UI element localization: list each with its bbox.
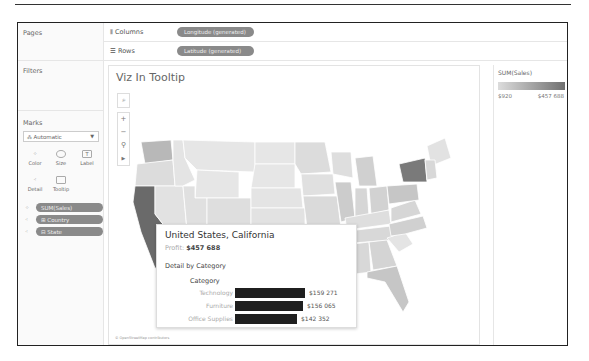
category-label: Technology <box>199 289 233 296</box>
state-nebraska <box>251 188 303 208</box>
country-pill-label: Country <box>47 217 69 223</box>
rows-icon: ☰ <box>110 47 118 55</box>
category-bar[interactable] <box>235 314 297 324</box>
state-north-dakota <box>255 142 295 164</box>
legend-gradient <box>498 82 565 90</box>
mark-pill-row: ⁖ ⊟ State <box>25 227 103 236</box>
category-value: $156 065 <box>307 302 336 309</box>
viz-title: Viz In Tooltip <box>116 71 185 84</box>
label-label: Label <box>80 160 94 166</box>
state-florida <box>367 266 409 312</box>
detail-icon: ⁖ <box>30 176 40 184</box>
chevron-down-icon: ▼ <box>90 133 94 139</box>
map-attribution[interactable]: © OpenStreetMap contributors <box>115 336 169 340</box>
tooltip-label: Tooltip <box>53 186 69 192</box>
pages-card[interactable]: Pages <box>18 23 104 61</box>
tooltip-bar-row: Technology $159 271 <box>157 288 357 298</box>
tooltip-bar-row: Furniture $156 065 <box>157 301 357 311</box>
longitude-pill[interactable]: Longitude (generated) <box>177 27 254 37</box>
label-icon: T <box>82 150 92 158</box>
state-wisconsin <box>331 152 353 178</box>
color-legend: SUM(Sales) $920 $457 688 <box>493 65 568 345</box>
columns-label: ⦀ Columns <box>110 28 143 36</box>
tooltip-icon <box>56 176 66 184</box>
mark-type-icon: ⁂ <box>27 134 34 140</box>
size-label: Size <box>56 160 66 166</box>
color-button[interactable]: ⁘ Color <box>23 148 47 170</box>
tooltip-bar-row: Office Supplies $142 352 <box>157 314 357 324</box>
rows-shelf: ☰ Rows Latitude (generated) <box>104 42 567 61</box>
legend-min: $920 <box>498 93 512 99</box>
state-new-york <box>399 158 427 182</box>
mark-pill-row: ⁖ ⊞ Country <box>25 215 103 224</box>
category-label: Office Supplies <box>188 315 233 322</box>
profit-label: Profit: <box>165 244 184 252</box>
state-wyoming <box>195 170 239 198</box>
left-panel: Pages Filters Marks ⁂ Automatic ▼ ⁘ Colo… <box>18 23 104 345</box>
state-pennsylvania <box>387 184 419 204</box>
marks-label: Marks <box>23 119 42 127</box>
mark-pill-row: ⁘ SUM(Sales) <box>25 203 103 212</box>
category-value: $142 352 <box>301 315 330 322</box>
tooltip-profit: Profit: $457 688 <box>165 244 220 252</box>
color-icon: ⁘ <box>30 150 40 158</box>
detail-icon: ⁖ <box>25 216 28 222</box>
filters-card[interactable]: Filters <box>18 61 104 111</box>
legend-title: SUM(Sales) <box>498 69 532 76</box>
legend-max: $457 688 <box>538 93 564 99</box>
profit-value: $457 688 <box>186 244 220 252</box>
detail-button[interactable]: ⁖ Detail <box>23 174 47 196</box>
state-new-england <box>425 160 437 180</box>
size-icon <box>56 150 66 158</box>
tooltip-title: United States, California <box>165 230 274 240</box>
state-south-dakota <box>251 164 295 188</box>
detail-heading: Detail by Category <box>165 262 226 270</box>
state-montana <box>183 140 255 172</box>
country-pill[interactable]: ⊞ Country <box>36 215 103 224</box>
filters-label: Filters <box>23 67 42 75</box>
mark-type-value: Automatic <box>34 134 62 140</box>
state-pill-label: State <box>47 229 62 235</box>
tooltip-button[interactable]: Tooltip <box>49 174 73 196</box>
color-icon: ⁘ <box>25 204 29 210</box>
category-value: $159 271 <box>309 289 338 296</box>
category-bar[interactable] <box>235 288 305 298</box>
detail-label: Detail <box>28 186 43 192</box>
state-michigan <box>355 156 377 186</box>
sum-sales-pill[interactable]: SUM(Sales) <box>36 203 103 212</box>
state-iowa <box>301 174 335 196</box>
columns-shelf: ⦀ Columns Longitude (generated) <box>104 23 567 42</box>
state-indiana <box>355 188 369 218</box>
top-divider <box>15 4 571 5</box>
state-oregon <box>135 160 175 186</box>
rows-label: ☰ Rows <box>110 47 135 55</box>
size-button[interactable]: Size <box>49 148 73 170</box>
category-header: Category <box>190 277 220 285</box>
label-button[interactable]: T Label <box>75 148 99 170</box>
state-tooltip: United States, California Profit: $457 6… <box>156 224 357 328</box>
mark-type-dropdown[interactable]: ⁂ Automatic ▼ <box>23 131 99 142</box>
color-label: Color <box>28 160 41 166</box>
state-minnesota <box>295 142 331 174</box>
state-pill[interactable]: ⊟ State <box>36 227 103 236</box>
detail-icon: ⁖ <box>25 228 28 234</box>
pages-label: Pages <box>23 29 42 37</box>
category-bar[interactable] <box>235 301 303 311</box>
state-ohio <box>369 186 389 214</box>
category-label: Furniture <box>206 302 233 309</box>
latitude-pill[interactable]: Latitude (generated) <box>177 46 254 56</box>
